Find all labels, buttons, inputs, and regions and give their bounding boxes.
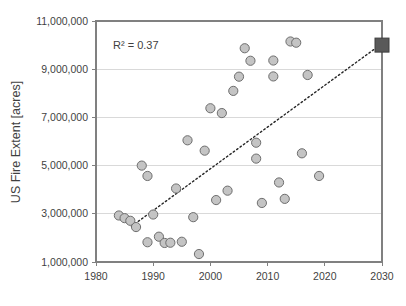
data-point-marker bbox=[246, 56, 255, 65]
data-point-marker bbox=[234, 72, 243, 81]
data-point-marker bbox=[194, 249, 203, 258]
data-point-marker bbox=[149, 210, 158, 219]
data-point-marker bbox=[189, 213, 198, 222]
data-point-marker bbox=[240, 44, 249, 53]
data-point-marker bbox=[252, 154, 261, 163]
data-point-marker bbox=[314, 171, 323, 180]
data-point-marker bbox=[303, 70, 312, 79]
data-point-marker bbox=[166, 238, 175, 247]
y-tick-label: 7,000,000 bbox=[41, 111, 88, 123]
data-point-marker bbox=[143, 238, 152, 247]
scatter-chart: 1,000,0003,000,0005,000,0007,000,0009,00… bbox=[0, 0, 406, 306]
data-point-marker bbox=[223, 186, 232, 195]
y-tick-label: 5,000,000 bbox=[41, 159, 88, 171]
data-point-marker bbox=[177, 237, 186, 246]
chart-canvas: 1,000,0003,000,0005,000,0007,000,0009,00… bbox=[0, 0, 406, 306]
x-axis-tick-labels: 198019902000201020202030 bbox=[84, 270, 394, 282]
x-tick-label: 1990 bbox=[142, 270, 166, 282]
x-tick-label: 2030 bbox=[370, 270, 394, 282]
data-point-marker bbox=[280, 194, 289, 203]
data-point-marker bbox=[274, 178, 283, 187]
projection-marker bbox=[375, 38, 389, 52]
data-point-marker bbox=[143, 171, 152, 180]
y-axis-title: US Fire Extent [acres] bbox=[9, 81, 23, 203]
data-point-marker bbox=[183, 136, 192, 145]
x-tick-label: 2020 bbox=[313, 270, 337, 282]
y-axis-tick-labels: 1,000,0003,000,0005,000,0007,000,0009,00… bbox=[36, 15, 88, 268]
x-tick-label: 2000 bbox=[199, 270, 223, 282]
data-point-marker bbox=[200, 146, 209, 155]
data-point-marker bbox=[217, 108, 226, 117]
y-tick-label: 3,000,000 bbox=[41, 207, 88, 219]
x-tick-label: 1980 bbox=[84, 270, 108, 282]
x-axis-tick-marks bbox=[96, 262, 382, 266]
data-point-marker bbox=[212, 195, 221, 204]
y-tick-label: 9,000,000 bbox=[41, 63, 88, 75]
y-tick-label: 1,000,000 bbox=[41, 256, 88, 268]
x-tick-label: 2010 bbox=[256, 270, 280, 282]
data-point-marker bbox=[269, 72, 278, 81]
data-point-marker bbox=[131, 222, 140, 231]
y-tick-label: 11,000,000 bbox=[36, 15, 88, 27]
data-point-marker bbox=[171, 184, 180, 193]
data-point-marker bbox=[206, 104, 215, 113]
data-point-marker bbox=[252, 138, 261, 147]
data-point-marker bbox=[297, 149, 306, 158]
r-squared-annotation: R² = 0.37 bbox=[113, 39, 159, 51]
data-point-marker bbox=[137, 161, 146, 170]
data-point-marker bbox=[257, 198, 266, 207]
data-point-marker bbox=[292, 38, 301, 47]
data-point-marker bbox=[269, 56, 278, 65]
projection-point-group bbox=[375, 38, 389, 52]
data-point-marker bbox=[229, 86, 238, 95]
